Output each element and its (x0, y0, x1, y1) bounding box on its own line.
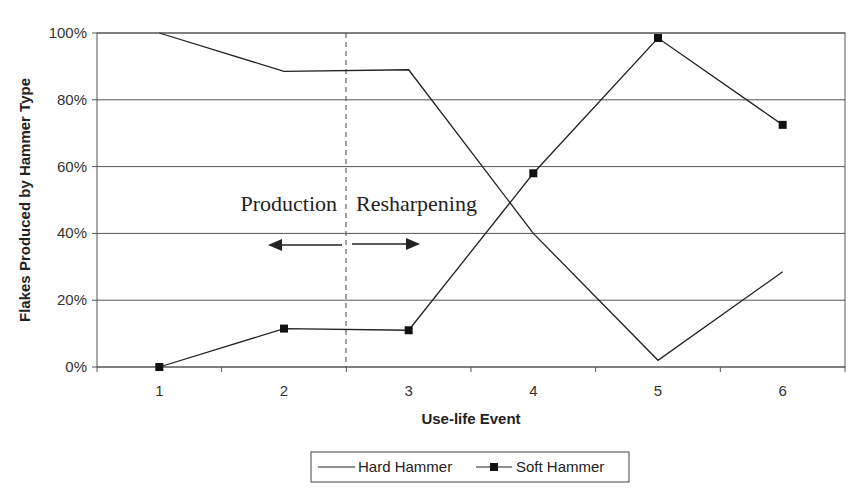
x-tick-label: 4 (529, 382, 537, 399)
resharpening-label: Resharpening (356, 191, 477, 216)
y-axis-title: Flakes Produced by Hammer Type (16, 78, 33, 322)
x-axis-title: Use-life Event (421, 410, 520, 427)
y-tick-label: 80% (57, 91, 87, 108)
soft-hammer-marker (529, 169, 537, 177)
line-chart: 0%20%40%60%80%100% 123456 Production Res… (0, 0, 859, 496)
right-arrow-icon (352, 238, 420, 250)
y-tick-label: 40% (57, 224, 87, 241)
x-axis-ticks: 123456 (97, 367, 845, 399)
y-tick-label: 60% (57, 158, 87, 175)
legend: Hard Hammer Soft Hammer (311, 452, 629, 482)
soft-hammer-marker (155, 363, 163, 371)
x-tick-label: 6 (778, 382, 786, 399)
soft-hammer-marker (280, 325, 288, 333)
x-tick-label: 3 (404, 382, 412, 399)
y-axis-ticks: 0%20%40%60%80%100% (49, 24, 97, 375)
soft-hammer-marker (405, 326, 413, 334)
production-label: Production (240, 191, 337, 216)
legend-soft-label: Soft Hammer (516, 458, 604, 475)
legend-hard-label: Hard Hammer (358, 458, 452, 475)
x-tick-label: 1 (155, 382, 163, 399)
x-tick-label: 2 (280, 382, 288, 399)
y-tick-label: 20% (57, 291, 87, 308)
left-arrow-icon (268, 239, 342, 251)
soft-hammer-marker (779, 121, 787, 129)
y-tick-label: 0% (65, 358, 87, 375)
legend-soft-marker-icon (490, 463, 498, 471)
soft-hammer-marker (654, 34, 662, 42)
y-tick-label: 100% (49, 24, 87, 41)
x-tick-label: 5 (654, 382, 662, 399)
